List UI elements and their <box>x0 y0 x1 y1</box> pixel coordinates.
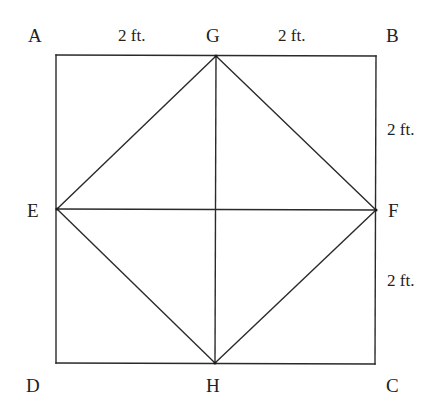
label-d: D <box>26 376 40 395</box>
geometry-diagram <box>0 0 445 413</box>
dimension-bf: 2 ft. <box>387 121 414 138</box>
label-g: G <box>206 26 220 45</box>
dimension-gb: 2 ft. <box>278 27 305 44</box>
label-e: E <box>27 201 39 220</box>
segment-eg <box>57 56 216 209</box>
point-h-dot <box>213 361 216 364</box>
point-e-dot <box>55 207 58 210</box>
label-a: A <box>28 26 42 45</box>
point-g-dot <box>214 54 217 57</box>
segment-ef <box>57 209 376 210</box>
segment-fh <box>215 210 376 363</box>
segment-he <box>57 209 215 363</box>
label-b: B <box>386 26 399 45</box>
label-c: C <box>386 376 399 395</box>
point-f-dot <box>374 208 377 211</box>
label-f: F <box>388 201 399 220</box>
dimension-fc: 2 ft. <box>387 272 414 289</box>
dimension-ag: 2 ft. <box>118 27 145 44</box>
label-h: H <box>206 376 220 395</box>
segment-gh <box>215 56 216 363</box>
segment-gf <box>216 56 376 210</box>
